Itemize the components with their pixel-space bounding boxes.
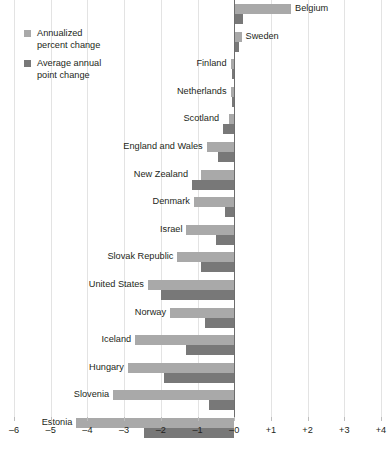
bar-annualized-percent-change <box>135 335 234 345</box>
legend-label: Average annual <box>37 58 144 70</box>
chart-row: Israel <box>0 222 380 250</box>
category-label: Slovak Republic <box>107 251 173 262</box>
chart-row: Iceland <box>0 332 380 360</box>
chart-row: Hungary <box>0 360 380 388</box>
x-tick-label: –4 <box>74 425 100 436</box>
bar-average-annual-point-change <box>209 400 235 410</box>
x-tick-mark <box>14 417 15 421</box>
legend-item: Average annualpoint change <box>24 58 144 81</box>
bar-average-annual-point-change <box>205 318 234 328</box>
category-label: Finland <box>196 58 226 69</box>
bar-average-annual-point-change <box>192 180 234 190</box>
x-tick-mark <box>381 417 382 421</box>
category-label: Belgium <box>295 3 328 14</box>
x-tick-mark <box>234 417 235 421</box>
category-label: Iceland <box>101 334 131 345</box>
chart-row: England and Wales <box>0 139 380 167</box>
chart-row: Norway <box>0 305 380 333</box>
bar-average-annual-point-change <box>201 262 234 272</box>
category-label: Israel <box>160 224 182 235</box>
x-tick-mark <box>271 417 272 421</box>
legend-label: Annualized <box>37 28 144 40</box>
bar-annualized-percent-change <box>113 390 234 400</box>
chart-row: Slovenia <box>0 387 380 415</box>
x-tick-mark <box>198 417 199 421</box>
bar-annualized-percent-change <box>186 225 234 235</box>
category-label: Netherlands <box>177 86 227 97</box>
x-tick-label: +3 <box>331 425 357 436</box>
x-tick-mark <box>161 417 162 421</box>
chart-row: New Zealand <box>0 167 380 195</box>
bar-average-annual-point-change <box>216 235 234 245</box>
x-tick-label: –3 <box>111 425 137 436</box>
x-tick-mark <box>124 417 125 421</box>
bar-average-annual-point-change <box>186 345 234 355</box>
bar-annualized-percent-change <box>234 4 291 14</box>
bar-average-annual-point-change <box>225 207 234 217</box>
x-tick-label: –1 <box>185 425 211 436</box>
bar-annualized-percent-change <box>234 32 241 42</box>
bar-average-annual-point-change <box>218 152 235 162</box>
chart-row: Denmark <box>0 194 380 222</box>
category-label: United States <box>89 279 144 290</box>
x-tick-label: +2 <box>295 425 321 436</box>
x-tick-label: +4 <box>368 425 391 436</box>
bar-annualized-percent-change <box>207 142 235 152</box>
category-label: England and Wales <box>123 141 202 152</box>
x-tick-label: +1 <box>258 425 284 436</box>
bar-average-annual-point-change <box>161 290 234 300</box>
category-label: Sweden <box>246 31 279 42</box>
x-tick-mark <box>51 417 52 421</box>
zero-axis-line <box>234 0 235 417</box>
x-tick-mark <box>87 417 88 421</box>
category-label: New Zealand <box>134 169 188 180</box>
legend-swatch-icon <box>24 30 31 37</box>
chart-row: Slovak Republic <box>0 249 380 277</box>
x-tick-mark <box>344 417 345 421</box>
gridline <box>381 0 382 417</box>
bar-annualized-percent-change <box>201 170 234 180</box>
category-label: Norway <box>135 307 166 318</box>
bar-annualized-percent-change <box>148 280 234 290</box>
bar-average-annual-point-change <box>234 14 243 24</box>
x-tick-label: –2 <box>148 425 174 436</box>
chart-legend: Annualizedpercent changeAverage annualpo… <box>24 28 144 88</box>
category-label: Scotland <box>183 113 219 124</box>
category-label: Denmark <box>153 196 190 207</box>
bar-annualized-percent-change <box>128 363 234 373</box>
x-tick-label: –6 <box>1 425 27 436</box>
chart-row: Belgium <box>0 1 380 29</box>
x-tick-mark <box>308 417 309 421</box>
bar-average-annual-point-change <box>164 373 234 383</box>
legend-label: point change <box>37 70 144 82</box>
chart-row: Scotland <box>0 111 380 139</box>
legend-label: percent change <box>37 40 144 52</box>
chart-row: United States <box>0 277 380 305</box>
bar-annualized-percent-change <box>170 308 234 318</box>
category-label: Hungary <box>89 362 124 373</box>
bar-annualized-percent-change <box>177 252 234 262</box>
x-axis: –6–5–4–3–2–1–0+1+2+3+4 <box>0 417 380 450</box>
category-label: Slovenia <box>74 389 109 400</box>
bar-annualized-percent-change <box>194 197 234 207</box>
bar-average-annual-point-change <box>223 124 234 134</box>
x-tick-label: –5 <box>38 425 64 436</box>
legend-swatch-icon <box>24 60 31 67</box>
x-tick-label: –0 <box>221 425 247 436</box>
legend-item: Annualizedpercent change <box>24 28 144 51</box>
